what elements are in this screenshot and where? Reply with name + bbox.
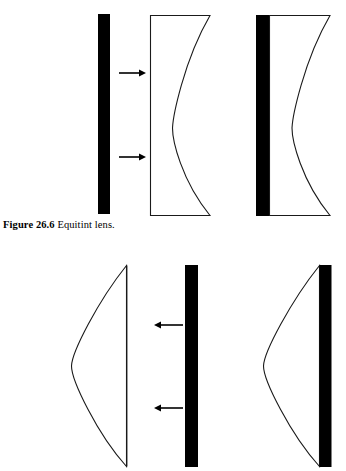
tint-plate-bottom <box>185 265 198 467</box>
plano-convex-lens-outline <box>72 266 127 467</box>
figure-caption-body: Equitint lens. <box>57 219 114 230</box>
light-ray-arrow-upper-top <box>119 70 146 77</box>
plano-convex-lens-tinted-outline <box>264 266 320 467</box>
bottom-panel-diagram <box>0 246 346 471</box>
figure-page: Figure 26.6 Equitint lens. <box>0 0 346 471</box>
plano-concave-lens-tinted-outline <box>270 16 331 216</box>
tint-plate-bonded-top <box>256 15 269 216</box>
plano-concave-lens-outline <box>151 16 211 216</box>
light-ray-arrow-lower-top <box>119 154 146 161</box>
top-panel-diagram <box>0 0 346 225</box>
light-ray-arrow-lower-bottom <box>154 405 183 412</box>
tint-plate-bonded-bottom <box>320 265 332 467</box>
figure-caption-label: Figure 26.6 <box>3 219 55 230</box>
figure-panel-bottom <box>0 246 346 471</box>
figure-panel-top <box>0 0 346 225</box>
figure-caption: Figure 26.6 Equitint lens. <box>3 218 243 231</box>
light-ray-arrow-upper-bottom <box>154 322 183 329</box>
tint-plate-top <box>98 14 110 214</box>
